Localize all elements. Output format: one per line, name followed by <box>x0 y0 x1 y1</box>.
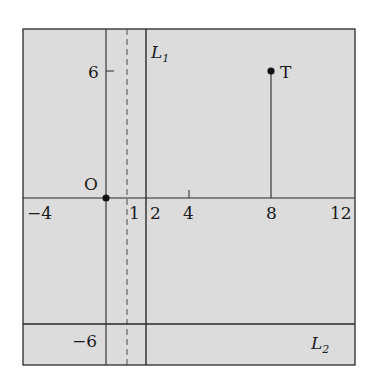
x-tick-label-neg4: −4 <box>27 203 52 223</box>
x-tick-label-12: 12 <box>330 203 352 223</box>
x-tick-label-1: 1 <box>129 203 140 223</box>
x-tick-label-4: 4 <box>183 203 194 223</box>
x-tick-label-8: 8 <box>266 203 277 223</box>
y-tick-label-6: 6 <box>88 62 99 82</box>
x-tick-label-2: 2 <box>150 203 161 223</box>
label-o: O <box>84 174 98 194</box>
label-t: T <box>280 62 292 82</box>
coordinate-diagram: O T L1 L2 6 −6 −4 1 2 4 8 12 <box>0 0 377 387</box>
y-tick-label-neg6: −6 <box>72 331 97 351</box>
point-o <box>102 194 109 201</box>
point-t <box>267 67 274 74</box>
